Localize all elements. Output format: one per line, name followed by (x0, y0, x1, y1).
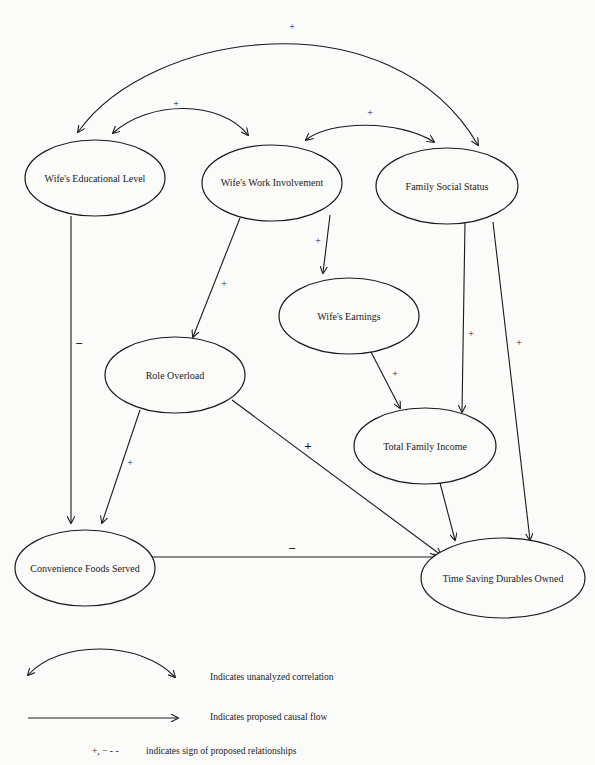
edge-earnings-income (370, 350, 400, 408)
legend-signs-symbol: +, − - - (92, 746, 119, 756)
sign-durables-conv: − (288, 541, 295, 556)
sign-work-earnings: + (315, 235, 321, 246)
sign-edu-conv: − (75, 336, 82, 351)
sign-overload-conv: + (127, 457, 133, 468)
legend-causal-text: Indicates proposed causal flow (210, 712, 327, 722)
node-income-label: Total Family Income (383, 441, 467, 452)
edge-work-earnings (323, 215, 330, 273)
node-overload-label: Role Overload (146, 370, 205, 381)
node-edu-label: Wife's Educational Level (45, 173, 146, 184)
sign-earnings-income: + (392, 368, 398, 379)
legend-correlation-text: Indicates unanalyzed correlation (210, 672, 333, 682)
edge-status-durables (493, 222, 530, 540)
edge-income-durables (440, 483, 455, 540)
node-durables-label: Time Saving Durables Owned (442, 573, 563, 584)
sign-edu-status: + (289, 21, 295, 32)
node-earnings-label: Wife's Earnings (317, 311, 380, 322)
edge-work-status-correlation (306, 125, 434, 142)
sign-status-durables: + (516, 337, 522, 348)
edge-status-income (462, 222, 465, 412)
edge-work-overload (193, 218, 240, 337)
node-conv-label: Convenience Foods Served (30, 563, 139, 574)
sign-edu-work: + (173, 98, 179, 109)
sign-overload-durables: + (304, 438, 311, 453)
edge-edu-work-correlation (113, 108, 248, 135)
legend-signs-text: indicates sign of proposed relationships (146, 746, 296, 756)
sign-work-overload: + (221, 278, 227, 289)
legend-correlation-arc (28, 649, 175, 677)
sign-status-income: + (468, 328, 474, 339)
sign-work-status: + (367, 107, 373, 118)
path-diagram: Wife's Educational Level Wife's Work Inv… (0, 0, 595, 765)
edge-edu-status-correlation (78, 44, 478, 145)
node-status-label: Family Social Status (406, 181, 489, 192)
node-work-label: Wife's Work Involvement (221, 177, 324, 188)
edge-overload-conv (102, 410, 140, 523)
